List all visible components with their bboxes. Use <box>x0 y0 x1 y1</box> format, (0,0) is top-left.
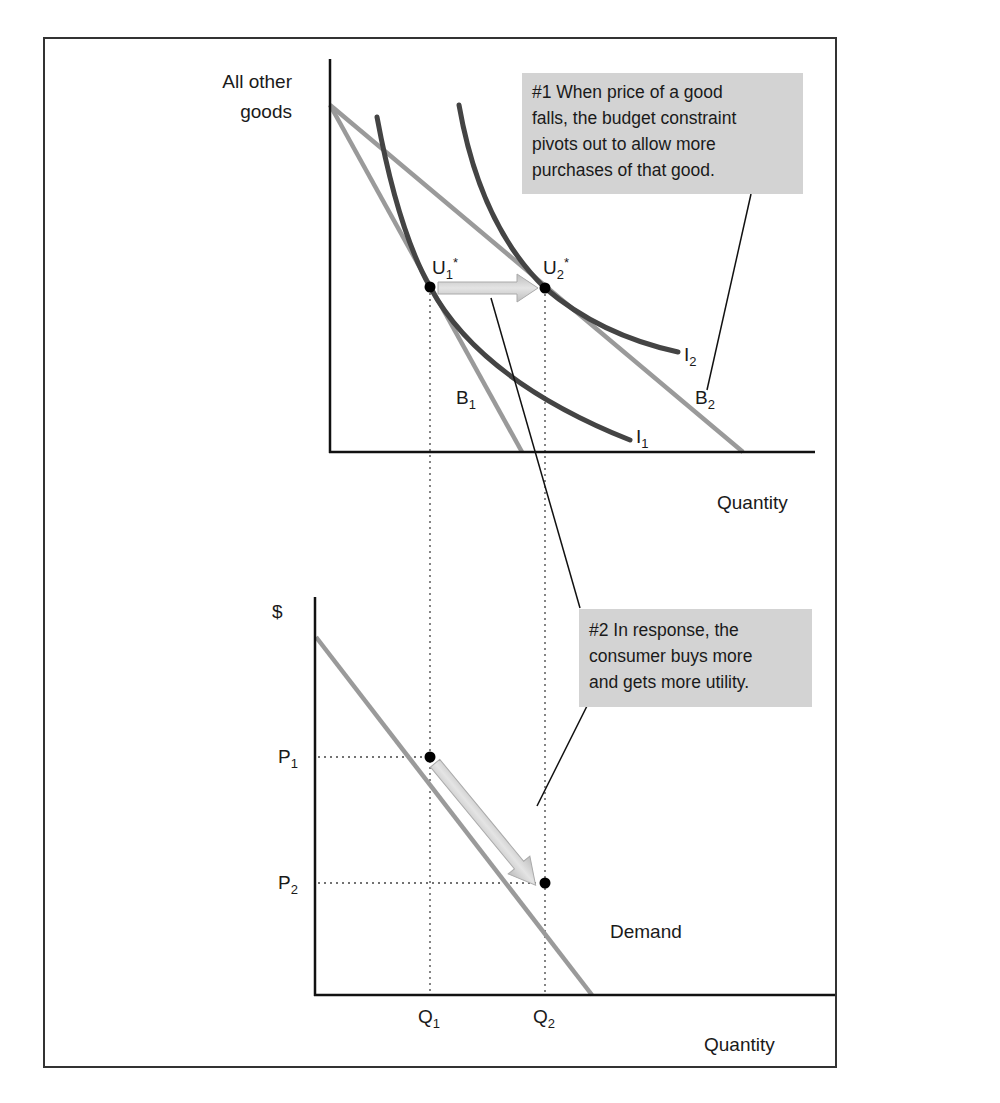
callout2-line: #2 In response, the <box>589 617 804 643</box>
point-p1-q1 <box>425 752 436 763</box>
top-chart <box>329 59 815 995</box>
callout2-line: and gets more utility. <box>589 669 804 695</box>
demand-label: Demand <box>610 921 682 943</box>
callout1-line: pivots out to allow more <box>532 131 795 157</box>
callout1-line: #1 When price of a good <box>532 79 795 105</box>
diagram-canvas <box>0 0 1000 1103</box>
i1-label: I1 <box>636 426 649 455</box>
y-axis-label-line2: goods <box>180 101 292 123</box>
i2-label: I2 <box>684 344 697 373</box>
callout-consumer-response: #2 In response, the consumer buys more a… <box>579 609 812 707</box>
u1-label: U1* <box>432 252 458 286</box>
top-y-axis-label: All other goods <box>180 71 292 123</box>
p1-label: P1 <box>278 746 298 775</box>
top-x-axis-label: Quantity <box>717 492 788 514</box>
callout1-line: falls, the budget constraint <box>532 105 795 131</box>
b1-label: B1 <box>456 387 476 416</box>
p2-label: P2 <box>278 872 298 901</box>
bottom-x-axis-label: Quantity <box>704 1034 775 1056</box>
u2-label: U2* <box>543 252 569 286</box>
bottom-y-axis-label: $ <box>272 601 283 623</box>
callout1-leader-line <box>707 194 751 390</box>
q2-label: Q2 <box>533 1006 555 1035</box>
callout2-line: consumer buys more <box>589 643 804 669</box>
y-axis-label-line1: All other <box>180 71 292 93</box>
demand-line <box>316 637 592 995</box>
b2-label: B2 <box>695 387 715 416</box>
q1-label: Q1 <box>418 1006 440 1035</box>
point-p2-q2 <box>540 878 551 889</box>
price-drop-arrow <box>424 754 546 894</box>
callout1-line: purchases of that good. <box>532 157 795 183</box>
callout-budget-pivot: #1 When price of a good falls, the budge… <box>522 73 803 194</box>
